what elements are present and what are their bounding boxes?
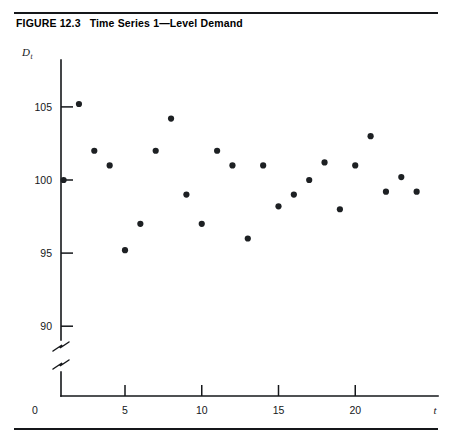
break-slash-2 [53,360,69,369]
data-point [352,162,358,168]
y-axis-title-subscript: t [30,52,33,61]
break-slash-1 [53,342,69,351]
y-tick-label-100: 100 [34,174,52,186]
data-point [214,148,220,154]
data-point [321,159,327,165]
data-point [398,174,404,180]
data-point [91,148,97,154]
data-point [76,101,82,107]
data-point [168,116,174,122]
axis-titles-group: Dtt [21,46,437,416]
x-axis-title: t [433,404,437,416]
data-point [275,203,281,209]
x-tick-label-20: 20 [349,404,361,416]
figure-container: FIGURE 12.3Time Series 1—Level Demand 90… [0,0,452,448]
bottom-rule [14,428,438,430]
x-tick-label-0: 0 [32,404,38,416]
data-point [153,148,159,154]
chart-plot-area: 909510010505101520 Dtt [0,0,452,448]
data-point [337,206,343,212]
x-tick-label-5: 5 [122,404,128,416]
x-tick-label-10: 10 [196,404,208,416]
data-point [245,235,251,241]
data-point [122,247,128,253]
y-tick-label-90: 90 [40,320,52,332]
data-point [199,221,205,227]
data-point [260,162,266,168]
data-point [368,133,374,139]
y-tick-label-95: 95 [40,247,52,259]
data-point [291,192,297,198]
y-axis-title: Dt [21,46,33,61]
data-point [137,221,143,227]
tick-labels-group: 909510010505101520 [32,101,361,416]
data-point [183,192,189,198]
data-point [414,189,420,195]
data-point [61,177,67,183]
axes-group [61,60,438,396]
data-points-group [61,101,420,253]
data-point [306,177,312,183]
x-tick-label-15: 15 [273,404,285,416]
ticks-group [61,107,355,396]
data-point [229,162,235,168]
data-point [383,189,389,195]
scatter-chart: 909510010505101520 Dtt [0,0,452,448]
y-tick-label-105: 105 [34,101,52,113]
data-point [107,162,113,168]
axis-break-mark [53,342,69,369]
